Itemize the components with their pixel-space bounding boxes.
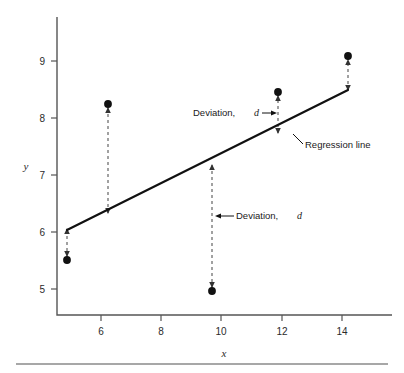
- deviation-lower-label: Deviation,: [236, 210, 278, 221]
- x-tick-label-8: 8: [158, 326, 164, 337]
- regression-deviation-figure: 9 8 7 6 5 6 8 10 12 14: [0, 0, 404, 373]
- x-axis-title: x: [221, 347, 227, 359]
- y-tick-label-6: 6: [39, 227, 45, 238]
- y-tick-label-7: 7: [39, 170, 45, 181]
- x-tick-label-6: 6: [98, 326, 104, 337]
- y-tick-label-8: 8: [39, 113, 45, 124]
- y-tick-label-5: 5: [39, 284, 45, 295]
- data-point-1: [63, 256, 71, 264]
- x-tick-label-14: 14: [336, 326, 348, 337]
- x-tick-label-12: 12: [276, 326, 288, 337]
- y-axis-title: y: [23, 160, 29, 172]
- data-point-4: [274, 88, 282, 96]
- regression-scatter-chart: 9 8 7 6 5 6 8 10 12 14: [0, 0, 404, 373]
- regression-line-label: Regression line: [305, 139, 370, 150]
- data-point-2: [104, 100, 112, 108]
- deviation-upper-label: Deviation,: [193, 107, 235, 118]
- chart-background: [0, 0, 404, 373]
- data-point-3: [208, 287, 216, 295]
- x-tick-label-10: 10: [215, 326, 227, 337]
- data-point-5: [344, 52, 352, 60]
- y-tick-label-9: 9: [39, 56, 45, 67]
